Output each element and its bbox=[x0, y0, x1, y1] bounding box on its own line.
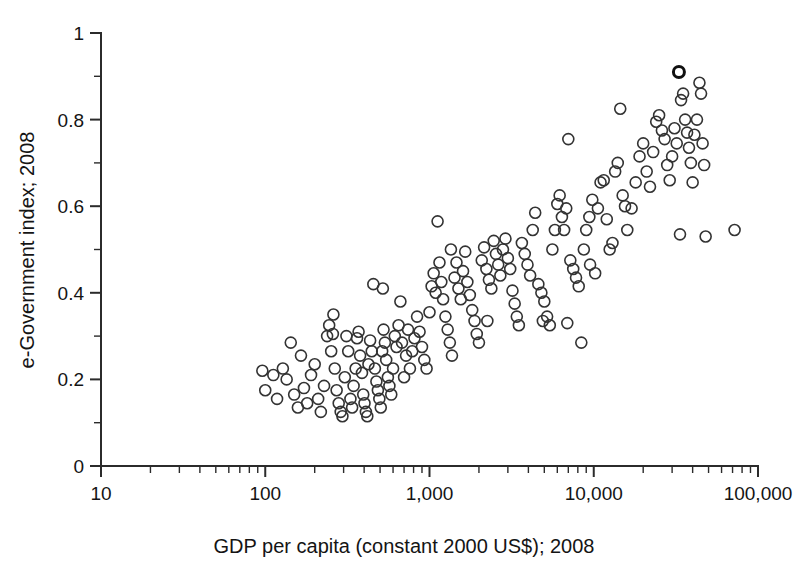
data-point bbox=[329, 363, 340, 374]
data-point bbox=[563, 134, 574, 145]
data-point bbox=[678, 88, 689, 99]
y-tick-label: 0.6 bbox=[58, 196, 84, 217]
data-point bbox=[257, 365, 268, 376]
data-point bbox=[446, 350, 457, 361]
data-point bbox=[654, 110, 665, 121]
data-point bbox=[519, 248, 530, 259]
x-axis-title: GDP per capita (constant 2000 US$); 2008 bbox=[214, 535, 595, 557]
data-point bbox=[378, 324, 389, 335]
data-point bbox=[547, 244, 558, 255]
y-tick-label: 0.4 bbox=[58, 283, 85, 304]
data-point bbox=[699, 160, 710, 171]
data-point bbox=[527, 225, 538, 236]
data-point bbox=[353, 326, 364, 337]
data-point bbox=[601, 214, 612, 225]
data-point bbox=[289, 389, 300, 400]
data-point bbox=[458, 266, 469, 277]
data-point bbox=[495, 270, 506, 281]
data-point bbox=[638, 138, 649, 149]
data-point bbox=[432, 216, 443, 227]
data-point bbox=[696, 88, 707, 99]
tick-marks-layer bbox=[90, 33, 758, 477]
data-point bbox=[522, 259, 533, 270]
data-point bbox=[440, 311, 451, 322]
data-point bbox=[326, 346, 337, 357]
data-point bbox=[328, 309, 339, 320]
data-point bbox=[395, 296, 406, 307]
data-point bbox=[412, 311, 423, 322]
data-point bbox=[488, 235, 499, 246]
data-point bbox=[620, 201, 631, 212]
data-point bbox=[469, 315, 480, 326]
scatter-plot-figure: 101001,00010,000100,000 00.20.40.60.81 G… bbox=[0, 0, 796, 573]
data-point bbox=[389, 331, 400, 342]
data-point bbox=[502, 253, 513, 264]
data-point bbox=[493, 259, 504, 270]
data-point bbox=[576, 337, 587, 348]
data-point bbox=[585, 259, 596, 270]
data-point bbox=[598, 175, 609, 186]
data-point bbox=[581, 225, 592, 236]
data-point bbox=[592, 203, 603, 214]
x-tick-label: 1,000 bbox=[406, 483, 454, 504]
data-points-layer bbox=[257, 66, 740, 421]
data-point bbox=[462, 276, 473, 287]
data-point bbox=[388, 363, 399, 374]
data-point bbox=[694, 77, 705, 88]
y-tick-label: 0 bbox=[73, 456, 84, 477]
axis-lines bbox=[101, 33, 758, 466]
data-point bbox=[285, 337, 296, 348]
data-point bbox=[516, 238, 527, 249]
y-tick-label: 1 bbox=[73, 23, 84, 44]
data-point bbox=[505, 263, 516, 274]
data-point bbox=[339, 372, 350, 383]
data-point bbox=[561, 203, 572, 214]
data-point bbox=[607, 238, 618, 249]
data-point bbox=[281, 374, 292, 385]
x-tick-label: 10,000 bbox=[565, 483, 623, 504]
data-point bbox=[306, 370, 317, 381]
data-point bbox=[622, 225, 633, 236]
data-point bbox=[434, 257, 445, 268]
data-point bbox=[641, 166, 652, 177]
axes-layer bbox=[101, 33, 758, 466]
data-point bbox=[697, 138, 708, 149]
data-point bbox=[729, 225, 740, 236]
data-point bbox=[277, 363, 288, 374]
data-point bbox=[319, 380, 330, 391]
x-tick-labels: 101001,00010,000100,000 bbox=[90, 483, 792, 504]
data-point bbox=[482, 315, 493, 326]
data-point bbox=[444, 337, 455, 348]
data-point bbox=[365, 335, 376, 346]
data-point bbox=[481, 263, 492, 274]
data-point bbox=[302, 398, 313, 409]
data-point bbox=[671, 138, 682, 149]
data-point bbox=[682, 127, 693, 138]
data-point bbox=[676, 95, 687, 106]
data-point bbox=[313, 393, 324, 404]
data-point bbox=[689, 129, 700, 140]
x-tick-label: 100,000 bbox=[724, 483, 793, 504]
data-point bbox=[298, 383, 309, 394]
data-point bbox=[664, 175, 675, 186]
data-point bbox=[348, 380, 359, 391]
data-point bbox=[644, 181, 655, 192]
data-point bbox=[467, 305, 478, 316]
data-point bbox=[525, 270, 536, 281]
data-point bbox=[416, 341, 427, 352]
y-tick-label: 0.2 bbox=[58, 369, 84, 390]
data-point bbox=[509, 298, 520, 309]
data-point bbox=[617, 190, 628, 201]
chart-canvas: 101001,00010,000100,000 00.20.40.60.81 G… bbox=[0, 0, 796, 573]
data-point bbox=[683, 142, 694, 153]
data-point bbox=[309, 359, 320, 370]
data-point bbox=[341, 331, 352, 342]
data-point bbox=[295, 350, 306, 361]
data-point bbox=[687, 177, 698, 188]
data-point bbox=[648, 147, 659, 158]
data-point bbox=[445, 244, 456, 255]
data-point bbox=[562, 318, 573, 329]
data-point bbox=[680, 114, 691, 125]
y-axis-title: e-Government index; 2008 bbox=[16, 132, 38, 369]
data-point bbox=[630, 177, 641, 188]
